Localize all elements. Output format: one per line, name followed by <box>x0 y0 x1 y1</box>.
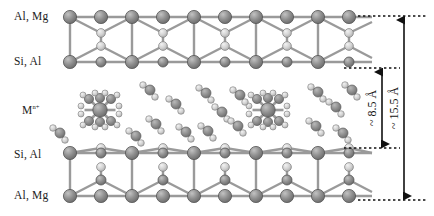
interlayer-region <box>50 82 361 147</box>
hydrated-cation-octahedron <box>246 90 290 130</box>
basal-spacing-dimension-label: ~ 15.5 Å <box>387 87 401 129</box>
figure-canvas: Al, Mg Si, Al Mn+ Si, Al Al, Mg <box>0 0 434 216</box>
interlayer-dimension-label: ~ 8.5 Å <box>365 90 379 126</box>
structure-drawing: ~ 8.5 Å ~ 15.5 Å <box>0 0 434 216</box>
top-clay-layer <box>63 10 372 68</box>
bottom-clay-layer <box>63 144 372 203</box>
hydrated-cation-octahedron <box>78 90 122 130</box>
dimension-annotations: ~ 8.5 Å ~ 15.5 Å <box>344 16 428 200</box>
